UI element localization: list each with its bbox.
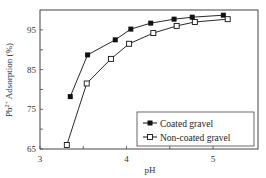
y-tick-label: 95 bbox=[27, 25, 37, 35]
legend-label-noncoated: Non-coated gravel bbox=[160, 133, 231, 143]
open-square-marker-icon bbox=[108, 56, 113, 61]
open-square-marker-icon bbox=[148, 135, 153, 140]
filled-square-marker-icon bbox=[172, 17, 177, 22]
filled-square-marker-icon bbox=[148, 121, 153, 126]
legend: Coated gravel Non-coated gravel bbox=[137, 112, 254, 146]
y-axis-title-rest: Adsorption (%) bbox=[4, 43, 14, 101]
filled-square-marker-icon bbox=[128, 27, 133, 32]
x-tick-label: 5 bbox=[211, 154, 216, 164]
legend-label-coated: Coated gravel bbox=[160, 119, 213, 129]
x-tick-label: 4 bbox=[124, 154, 129, 164]
filled-square-marker-icon bbox=[68, 94, 73, 99]
y-axis-title: Pb2+ Adsorption (%) bbox=[4, 43, 14, 117]
open-square-marker-icon bbox=[127, 41, 132, 46]
y-tick-label: 75 bbox=[27, 104, 37, 114]
open-square-marker-icon bbox=[225, 17, 230, 22]
open-square-marker-icon bbox=[151, 31, 156, 36]
series-line-0 bbox=[70, 15, 223, 96]
open-square-marker-icon bbox=[192, 19, 197, 24]
y-axis-title-base: Pb bbox=[4, 107, 14, 117]
x-tick-label: 3 bbox=[38, 154, 43, 164]
y-axis-ticks: 65758595 bbox=[27, 25, 43, 154]
filled-square-marker-icon bbox=[190, 15, 195, 20]
filled-square-marker-icon bbox=[85, 52, 90, 57]
open-square-marker-icon bbox=[84, 81, 89, 86]
x-axis-title: pH bbox=[145, 165, 157, 175]
open-square-marker-icon bbox=[174, 23, 179, 28]
open-square-marker-icon bbox=[64, 143, 69, 148]
filled-square-marker-icon bbox=[113, 37, 118, 42]
filled-square-marker-icon bbox=[148, 21, 153, 26]
y-tick-label: 85 bbox=[27, 65, 37, 75]
chart: 345 65758595 pH Pb2+ Adsorption (%) Coat… bbox=[0, 0, 266, 178]
y-tick-label: 65 bbox=[27, 144, 37, 154]
